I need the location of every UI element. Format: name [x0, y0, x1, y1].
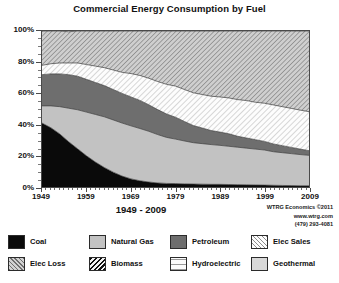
- x-minor-tick: [140, 188, 141, 190]
- x-tick-mark: [176, 188, 177, 192]
- x-minor-tick: [211, 188, 212, 190]
- x-minor-tick: [99, 188, 100, 190]
- x-minor-tick: [72, 188, 73, 190]
- x-minor-tick: [126, 188, 127, 190]
- x-minor-tick: [279, 188, 280, 190]
- x-minor-tick: [95, 188, 96, 190]
- legend-label: Elec Sales: [273, 237, 311, 246]
- x-minor-tick: [252, 188, 253, 190]
- x-minor-tick: [229, 188, 230, 190]
- x-minor-tick: [153, 188, 154, 190]
- x-tick-label: 1979: [156, 192, 196, 201]
- x-minor-tick: [225, 188, 226, 190]
- credit-line-3: (479) 293-4081: [203, 220, 333, 229]
- legend-label: Geothermal: [273, 259, 315, 268]
- x-minor-tick: [234, 188, 235, 190]
- x-tick-label: 1989: [200, 192, 240, 201]
- x-minor-tick: [59, 188, 60, 190]
- x-minor-tick: [113, 188, 114, 190]
- x-minor-tick: [68, 188, 69, 190]
- legend-swatch-petroleum: [170, 235, 187, 249]
- x-minor-tick: [162, 188, 163, 190]
- x-minor-tick: [149, 188, 150, 190]
- x-minor-tick: [292, 188, 293, 190]
- x-minor-tick: [135, 188, 136, 190]
- legend-label: Hydroelectric: [192, 259, 241, 268]
- x-minor-tick: [270, 188, 271, 190]
- x-minor-tick: [167, 188, 168, 190]
- x-minor-tick: [104, 188, 105, 190]
- legend-item[interactable]: Hydroelectric: [170, 254, 251, 273]
- x-minor-tick: [274, 188, 275, 190]
- x-minor-tick: [184, 188, 185, 190]
- x-minor-tick: [297, 188, 298, 190]
- legend-row-2: Elec LossBiomassHydroelectricGeothermal: [8, 254, 333, 273]
- chart-title: Commercial Energy Consumption by Fuel: [0, 3, 339, 14]
- legend-item[interactable]: Petroleum: [170, 232, 251, 251]
- x-minor-tick: [261, 188, 262, 190]
- x-minor-tick: [158, 188, 159, 190]
- y-tick-label: 100%: [0, 25, 34, 34]
- legend-swatch-biomass: [89, 257, 106, 271]
- legend-item[interactable]: Coal: [8, 232, 89, 251]
- x-minor-tick: [243, 188, 244, 190]
- x-minor-tick: [238, 188, 239, 190]
- legend-label: Petroleum: [192, 237, 229, 246]
- x-minor-tick: [77, 188, 78, 190]
- x-tick-label: 1949: [21, 192, 61, 201]
- x-minor-tick: [122, 188, 123, 190]
- legend-swatch-coal: [8, 235, 25, 249]
- x-minor-tick: [180, 188, 181, 190]
- x-minor-tick: [50, 188, 51, 190]
- x-tick-mark: [220, 188, 221, 192]
- legend-row-1: CoalNatural GasPetroleumElec Sales: [8, 232, 333, 251]
- x-minor-tick: [54, 188, 55, 190]
- x-minor-tick: [117, 188, 118, 190]
- y-tick-label: 80%: [0, 57, 34, 66]
- x-minor-tick: [288, 188, 289, 190]
- x-minor-tick: [301, 188, 302, 190]
- legend-swatch-hydroelectric: [170, 257, 187, 271]
- y-tick-label: 40%: [0, 120, 34, 129]
- legend-swatch-elec-loss: [8, 257, 25, 271]
- legend-label: Natural Gas: [111, 237, 154, 246]
- x-tick-mark: [86, 188, 87, 192]
- x-minor-tick: [171, 188, 172, 190]
- legend-label: Elec Loss: [30, 259, 65, 268]
- x-tick-label: 1959: [66, 192, 106, 201]
- x-minor-tick: [256, 188, 257, 190]
- legend-item[interactable]: Geothermal: [251, 254, 332, 273]
- credit-line-1: WTRG Economics ©2011: [203, 203, 333, 212]
- legend-item[interactable]: Natural Gas: [89, 232, 170, 251]
- legend-label: Biomass: [111, 259, 143, 268]
- x-minor-tick: [306, 188, 307, 190]
- credit-block: WTRG Economics ©2011 www.wtrg.com (479) …: [203, 203, 333, 229]
- legend-item[interactable]: Elec Loss: [8, 254, 89, 273]
- x-minor-tick: [202, 188, 203, 190]
- legend-swatch-natural-gas: [89, 235, 106, 249]
- x-minor-tick: [247, 188, 248, 190]
- x-minor-tick: [45, 188, 46, 190]
- stacked-area-svg: [42, 31, 309, 187]
- x-minor-tick: [193, 188, 194, 190]
- x-minor-tick: [283, 188, 284, 190]
- x-tick-label: 1999: [245, 192, 285, 201]
- plot-area: [41, 30, 310, 188]
- y-tick-label: 20%: [0, 151, 34, 160]
- x-tick-label: 1969: [111, 192, 151, 201]
- x-minor-tick: [63, 188, 64, 190]
- x-minor-tick: [207, 188, 208, 190]
- x-minor-tick: [216, 188, 217, 190]
- legend: CoalNatural GasPetroleumElec Sales Elec …: [8, 232, 333, 278]
- legend-item[interactable]: Elec Sales: [251, 232, 332, 251]
- legend-label: Coal: [30, 237, 46, 246]
- x-tick-mark: [41, 188, 42, 192]
- x-tick-label: 2009: [290, 192, 330, 201]
- x-minor-tick: [144, 188, 145, 190]
- legend-item[interactable]: Biomass: [89, 254, 170, 273]
- x-minor-tick: [198, 188, 199, 190]
- y-tick-label: 0%: [0, 183, 34, 192]
- legend-swatch-elec-sales: [251, 235, 268, 249]
- legend-swatch-geothermal: [251, 257, 268, 271]
- x-minor-tick: [90, 188, 91, 190]
